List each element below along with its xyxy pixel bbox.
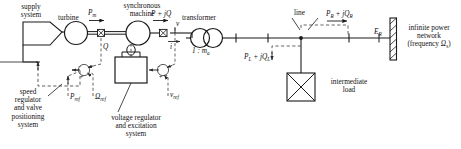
receiving-power-label: PR + jQR [326,10,353,18]
line-label: line [294,9,305,17]
turbine-label: turbine [58,14,79,22]
intermediate-load-symbol [287,38,315,101]
synchronous-machine-symbol [126,21,150,45]
terminal-measurement-box [160,29,168,36]
terminal-current-label: i [170,43,172,51]
speed-sum-minus-sign: − [78,62,81,70]
infinite-network-label: infinite power network (frequency Ωs) [398,24,460,49]
turns-ratio-label: 1 : ma [192,47,210,55]
voltage-ref-label: vref [170,91,179,99]
transmission-line [236,34,390,43]
supply-system-symbol [23,22,62,62]
voltage-ref-arrow [165,76,168,80]
speed-sum-plus-sign: + [80,73,83,81]
infinite-frequency-label: (frequency Ωs) [407,39,450,48]
transformer-label: transformer [182,14,216,22]
infinite-voltage-label: ER [374,28,382,36]
turbine-symbol [62,22,88,45]
mechanical-power-label: Pm [88,9,96,17]
electrical-power-label: P + jQ [151,10,171,18]
reactive-feedback-label: Q [103,43,108,51]
voltage-sum-minus-sign: − [157,62,160,70]
voltage-sum-plus-sign: + [159,73,162,81]
voltage-regulator-label: voltage regulator and excitation system [90,114,182,139]
load-power-label: PL + jQL [244,53,270,61]
diagram-canvas [0,0,461,149]
shaft-torque-sensor [98,29,105,36]
speed-regulator-label: speed regulator and valve positioning sy… [2,88,54,129]
power-ref-label: Pref [70,93,80,101]
line-label-leader [292,18,318,30]
receiving-power-dashed-path [301,25,348,36]
speed-ref-label: Ωref [95,93,106,101]
intermediate-load-label: intermediate load [318,78,380,94]
load-power-dashed-path [272,46,301,54]
terminal-voltage-label: v [176,20,179,28]
supply-system-label: supply system [8,3,54,19]
turbine-shaft [88,32,127,35]
infinite-bus-symbol [390,18,397,60]
transformer-symbol [186,29,236,48]
power-system-diagram: supply system turbine Pm synchronous mac… [0,0,461,149]
speed-feedback-path [89,38,101,67]
voltage-regulator-leader [118,83,131,112]
